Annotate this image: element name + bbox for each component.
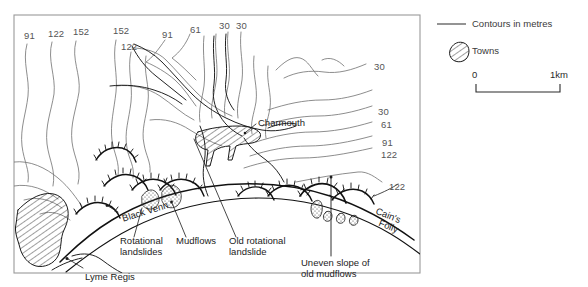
geomorphological-map-figure: 91 122 152 152 122 91 61 30 30 30 30 61 … xyxy=(0,0,588,287)
contour-label-122-e1: 122 xyxy=(381,150,397,161)
annotation-mudflows: Mudflows xyxy=(176,236,216,247)
legend-towns-label: Towns xyxy=(472,46,499,57)
annotation-rotational-landslides-line2: landslides xyxy=(120,247,162,258)
contour-label-122-w: 122 xyxy=(48,29,64,40)
contour-label-91-w: 91 xyxy=(24,31,35,42)
map-artwork xyxy=(0,0,588,287)
contour-label-61-m: 61 xyxy=(190,25,201,36)
contour-label-30-n1: 30 xyxy=(219,21,230,32)
scale-bar-start-label: 0 xyxy=(472,70,477,81)
annotation-uneven-slope-line2: old mudflows xyxy=(301,269,356,280)
contour-label-152-m: 152 xyxy=(113,26,129,37)
legend-graphics xyxy=(437,24,560,92)
contour-label-30-e2: 30 xyxy=(378,107,389,118)
contour-label-91-e: 91 xyxy=(382,138,393,149)
contour-label-61-e: 61 xyxy=(381,120,392,131)
contour-label-152-w: 152 xyxy=(73,27,89,38)
contour-label-122-e2: 122 xyxy=(389,182,405,193)
contour-label-91-m: 91 xyxy=(162,30,173,41)
legend-contours-label: Contours in metres xyxy=(472,19,552,30)
scale-bar-end-label: 1km xyxy=(550,70,568,81)
contour-label-122-m: 122 xyxy=(121,42,137,53)
place-label-charmouth: Charmouth xyxy=(258,118,305,129)
legend-town-swatch xyxy=(450,42,469,62)
scale-bar xyxy=(476,84,560,92)
contour-label-30-n2: 30 xyxy=(236,21,247,32)
contour-label-30-e1: 30 xyxy=(374,62,385,73)
annotation-old-rotational-line2: landslide xyxy=(229,247,267,258)
place-label-lyme-regis: Lyme Regis xyxy=(85,272,135,283)
